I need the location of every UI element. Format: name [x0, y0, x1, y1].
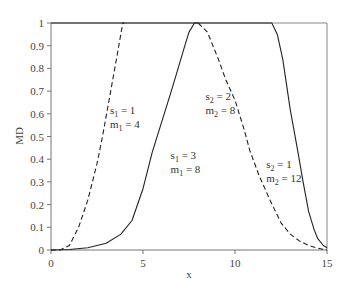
- x-axis-label: x: [186, 268, 192, 280]
- y-ticks: 00.10.20.30.40.50.60.70.80.91: [30, 17, 51, 256]
- x-ticks: 051015: [48, 250, 333, 269]
- y-tick-label: 0.7: [30, 85, 44, 97]
- y-axis-label: MD: [13, 127, 25, 145]
- series-group: [51, 23, 327, 250]
- y-tick-label: 0.8: [30, 62, 44, 74]
- y-tick-label: 0: [39, 244, 45, 256]
- annotation-m: m1 = 4: [110, 118, 140, 133]
- series-line-1: [51, 23, 198, 250]
- annotation-m: m2 = 12: [266, 172, 301, 187]
- annotation-s: s2 = 2: [206, 90, 232, 105]
- annotations: s1 = 1m1 = 4s1 = 3m1 = 8s2 = 2m2 = 8s2 =…: [110, 90, 302, 187]
- annotation-s: s2 = 1: [266, 158, 292, 173]
- series-line-3: [51, 23, 327, 248]
- annotation-m: m2 = 8: [206, 104, 236, 119]
- series-line-2: [198, 23, 327, 250]
- membership-degree-chart: 00.10.20.30.40.50.60.70.80.91 051015 s1 …: [0, 0, 344, 294]
- y-tick-label: 0.1: [30, 221, 44, 233]
- y-tick-label: 1: [39, 17, 45, 29]
- x-tick-label: 5: [140, 257, 146, 269]
- y-tick-label: 0.2: [30, 199, 44, 211]
- y-tick-label: 0.9: [30, 40, 44, 52]
- series-line-0: [51, 23, 125, 250]
- y-tick-label: 0.3: [30, 176, 44, 188]
- x-tick-label: 0: [48, 257, 54, 269]
- y-tick-label: 0.4: [30, 153, 44, 165]
- x-tick-label: 10: [230, 257, 242, 269]
- y-tick-label: 0.6: [30, 108, 44, 120]
- annotation-m: m1 = 8: [171, 163, 201, 178]
- annotation-s: s1 = 1: [110, 104, 136, 119]
- x-tick-label: 15: [322, 257, 334, 269]
- plot-frame: [51, 23, 327, 250]
- annotation-s: s1 = 3: [171, 149, 197, 164]
- y-tick-label: 0.5: [30, 131, 44, 143]
